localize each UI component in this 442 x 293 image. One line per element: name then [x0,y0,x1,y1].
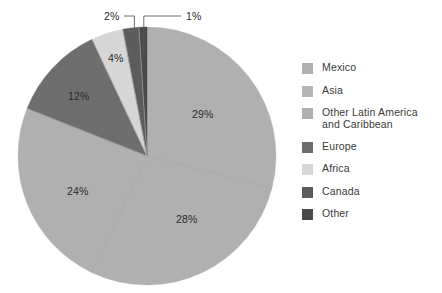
legend-item-label: Africa [322,163,350,175]
pie-chart-figure: 29%28%24%12%4%2%1% MexicoAsiaOther Latin… [0,0,442,293]
legend-label-line1: Asia [322,84,343,96]
legend-swatch-icon [302,108,313,119]
data-label-other-latin-america-and-caribbean: 24% [67,186,89,197]
pie-plot-area: 29%28%24%12%4%2%1% [0,0,300,293]
legend-item-mexico[interactable]: Mexico [302,62,442,74]
legend-label-line2: and Caribbean [322,119,418,131]
pie-slices-group [18,27,276,285]
legend-swatch-icon [302,142,313,153]
legend-label-line1: Mexico [322,61,356,73]
legend-label-line1: Canada [322,185,360,197]
data-label-africa: 4% [108,53,124,64]
legend-item-canada[interactable]: Canada [302,186,442,198]
data-label-canada: 2% [104,11,120,22]
legend-swatch-icon [302,187,313,198]
data-label-other: 1% [186,11,202,22]
legend-item-europe[interactable]: Europe [302,141,442,153]
pie-chart-svg [0,0,300,293]
legend-item-other[interactable]: Other [302,208,442,220]
legend-swatch-icon [302,86,313,97]
legend-item-africa[interactable]: Africa [302,163,442,175]
chart-legend: MexicoAsiaOther Latin Americaand Caribbe… [302,62,442,231]
data-label-europe: 12% [68,91,90,102]
legend-item-label: Europe [322,141,357,153]
legend-item-label: Other Latin Americaand Caribbean [322,107,418,130]
legend-item-label: Mexico [322,62,356,74]
data-label-mexico: 29% [192,109,214,120]
legend-swatch-icon [302,164,313,175]
legend-item-label: Asia [322,85,343,97]
legend-label-line1: Europe [322,140,357,152]
legend-label-line1: Other [322,207,349,219]
legend-item-label: Canada [322,186,360,198]
legend-label-line1: Africa [322,162,350,174]
legend-swatch-icon [302,63,313,74]
legend-item-asia[interactable]: Asia [302,85,442,97]
data-label-asia: 28% [176,214,198,225]
legend-item-label: Other [322,208,349,220]
legend-item-other-latin-america[interactable]: Other Latin Americaand Caribbean [302,107,442,130]
legend-label-line1: Other Latin America [322,106,418,118]
legend-swatch-icon [302,209,313,220]
